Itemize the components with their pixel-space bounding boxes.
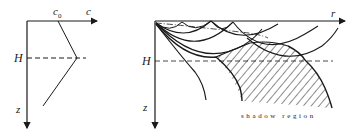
c0-label-subscript: 0 (58, 12, 62, 20)
sound-speed-profile-panel (27, 21, 97, 128)
deep-ray (156, 24, 206, 100)
r-axis-label: r (331, 8, 335, 19)
c0-label: c0 (53, 6, 61, 20)
speed-profile-curve (43, 21, 77, 106)
z-label-left: z (16, 104, 20, 115)
c-axis-label: c (86, 6, 91, 17)
shadow-region-caption: shadow region (241, 113, 316, 120)
h-label-left: H (14, 52, 23, 64)
z-label-right: z (143, 102, 147, 113)
h-label-right: H (142, 55, 151, 67)
shadow-region-hatch (200, 35, 340, 115)
ray-arc (211, 21, 278, 35)
